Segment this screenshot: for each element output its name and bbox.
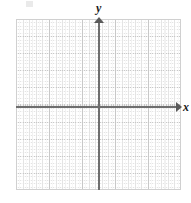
y-axis-arrow-icon	[94, 17, 104, 23]
x-axis-arrow-icon	[176, 102, 182, 112]
y-axis-line	[98, 21, 100, 190]
coordinate-plane-figure: x y	[0, 0, 191, 203]
x-axis-line	[16, 106, 178, 108]
y-axis-label: y	[96, 2, 101, 14]
scan-artifact	[26, 1, 33, 7]
x-axis-label: x	[183, 101, 189, 113]
